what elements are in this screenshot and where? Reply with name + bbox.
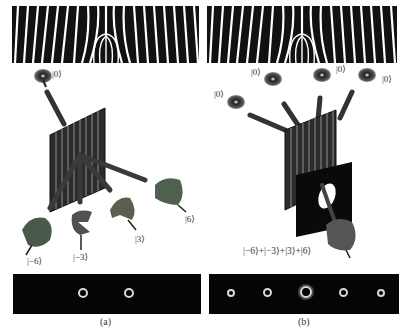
output-wavefront-6-icon — [155, 178, 186, 212]
detection-screen-a — [13, 274, 201, 314]
detection-screen-b — [209, 274, 399, 314]
input-state-label-b4: |0⟩ — [382, 75, 392, 84]
input-beam-donut-icon — [227, 68, 376, 109]
intensity-ring-spot — [78, 288, 88, 298]
input-beam-donut-icon — [34, 69, 52, 87]
input-state-label-b3: |0⟩ — [336, 65, 346, 74]
intensity-ring-spot — [339, 288, 348, 297]
output-wavefront-3-icon — [110, 198, 136, 231]
output-state-label-6: |6⟩ — [185, 215, 195, 224]
panel-b-illustration — [200, 60, 405, 270]
panel-a-illustration — [0, 60, 200, 270]
output-wavefront-minus6-icon — [22, 218, 52, 256]
fork-hologram-pattern-b — [207, 6, 397, 63]
output-state-label-3: |3⟩ — [135, 235, 145, 244]
superposition-wavefront-icon — [326, 219, 356, 258]
intensity-ring-spot-center — [300, 286, 312, 298]
input-state-label-b2: |0⟩ — [251, 68, 261, 77]
caption-b: (b) — [298, 316, 310, 327]
output-state-label-minus6: |−6⟩ — [27, 257, 42, 266]
fork-fringes-icon — [207, 6, 397, 63]
intensity-ring-spot — [263, 288, 272, 297]
output-state-label-minus3: |−3⟩ — [73, 253, 88, 262]
input-state-label-a: |0⟩ — [52, 70, 62, 79]
superposition-state-label: |−6⟩+|−3⟩+|3⟩+|6⟩ — [243, 245, 311, 256]
intensity-ring-spot — [227, 289, 235, 297]
output-wavefront-minus3-icon — [72, 211, 92, 250]
intensity-ring-spot — [124, 288, 134, 298]
intensity-ring-spot — [377, 289, 385, 297]
fork-hologram-pattern-a — [12, 6, 199, 63]
incoming-beam — [47, 92, 64, 124]
caption-a: (a) — [100, 316, 111, 327]
fork-fringes-icon — [12, 6, 199, 63]
input-state-label-b1: |0⟩ — [214, 90, 224, 99]
